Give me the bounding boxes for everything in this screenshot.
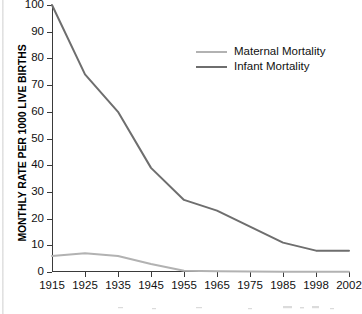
y-tick-mark	[47, 272, 52, 273]
legend-label: Maternal Mortality	[234, 46, 325, 58]
y-tick-label: 80	[31, 53, 44, 65]
y-axis-title: MONTHLY RATE PER 1000 LIVE BIRTHS	[14, 3, 30, 283]
x-tick-label: 1925	[72, 280, 98, 292]
chart-legend: Maternal MortalityInfant Mortality	[196, 44, 325, 74]
x-tick-label: 2002	[336, 280, 362, 292]
x-tick-label: 1935	[105, 280, 131, 292]
x-tick-mark	[118, 272, 119, 277]
y-tick-label: 100	[25, 0, 44, 11]
x-tick-label: 1945	[138, 280, 164, 292]
x-tick-mark	[250, 272, 251, 277]
x-tick-mark	[85, 272, 86, 277]
x-tick-label: 1915	[39, 280, 65, 292]
y-tick-label: 90	[31, 26, 44, 38]
legend-swatch	[196, 66, 227, 68]
y-tick-label: 10	[31, 240, 44, 252]
x-tick-label: 1955	[171, 280, 197, 292]
x-tick-mark	[217, 272, 218, 277]
legend-label: Infant Mortality	[234, 61, 309, 73]
x-tick-label: 1985	[270, 280, 296, 292]
x-tick-mark	[151, 272, 152, 277]
y-tick-label: 60	[31, 106, 44, 118]
x-tick-label: 1965	[204, 280, 230, 292]
legend-item-maternal-mortality: Maternal Mortality	[196, 44, 325, 59]
x-tick-mark	[349, 272, 350, 277]
y-tick-label: 70	[31, 79, 44, 91]
legend-swatch	[196, 51, 227, 53]
scan-speckle-artifact	[0, 300, 359, 314]
y-tick-label: 20	[31, 213, 44, 225]
y-tick-label: 50	[31, 133, 44, 145]
x-tick-mark	[283, 272, 284, 277]
series-line-maternal-mortality	[52, 253, 349, 271]
y-tick-label: 40	[31, 159, 44, 171]
y-tick-label: 0	[38, 266, 44, 278]
series-line-infant-mortality	[52, 5, 349, 251]
x-tick-mark	[316, 272, 317, 277]
legend-item-infant-mortality: Infant Mortality	[196, 59, 325, 74]
y-tick-label: 30	[31, 186, 44, 198]
x-tick-mark	[184, 272, 185, 277]
x-tick-label: 1975	[237, 280, 263, 292]
x-tick-label: 1998	[303, 280, 329, 292]
